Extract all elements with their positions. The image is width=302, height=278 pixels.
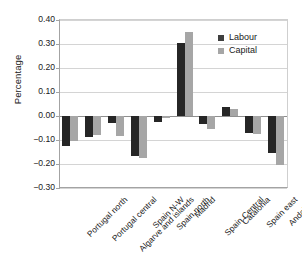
bar-group [266,20,289,187]
bar-chart: Percentage 0.400.300.200.100.00−0.10−0.2… [0,0,302,278]
y-tick-label: 0.40 [21,14,55,24]
bar-labour [131,116,139,156]
y-tick-label: 0.30 [21,38,55,48]
bar-group [197,20,220,187]
bar-labour [108,116,116,123]
y-tick-label: −0.30 [21,182,55,192]
bar-capital [162,116,170,118]
bar-capital [70,116,78,141]
bar-group [129,20,152,187]
chart-legend: LabourCapital [218,31,257,57]
y-axis-tick-labels: 0.400.300.200.100.00−0.10−0.20−0.30 [19,0,55,278]
bar-labour [245,116,253,133]
bar-capital [276,116,284,165]
y-tick-label: 0.10 [21,86,55,96]
bar-group [152,20,175,187]
bar-capital [185,32,193,116]
bar-capital [207,116,215,129]
bar-capital [230,109,238,116]
bar-labour [268,116,276,153]
bar-labour [222,107,230,116]
gridline [60,188,287,189]
bar-labour [177,43,185,116]
legend-item: Labour [218,31,257,44]
y-tick-label: −0.10 [21,134,55,144]
legend-swatch-icon [218,48,224,54]
legend-item: Capital [218,44,257,57]
bar-capital [253,116,261,134]
bar-labour [85,116,93,137]
bar-group [83,20,106,187]
bar-capital [139,116,147,158]
y-tick-label: 0.00 [21,110,55,120]
bar-capital [93,116,101,135]
y-tick-label: −0.20 [21,158,55,168]
legend-label: Capital [229,44,257,57]
bar-labour [62,116,70,146]
y-tick-label: 0.20 [21,62,55,72]
legend-label: Labour [229,31,257,44]
y-tick-mark [56,188,60,189]
bar-labour [154,116,162,122]
bar-group [106,20,129,187]
bar-group [175,20,198,187]
bar-labour [199,116,207,124]
bar-group [60,20,83,187]
legend-swatch-icon [218,35,224,41]
bar-capital [116,116,124,136]
